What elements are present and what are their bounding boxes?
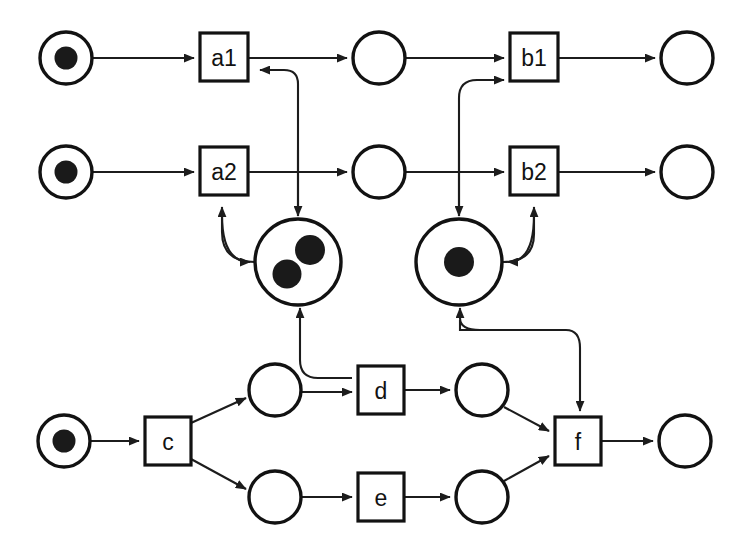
arc-f-to-shared-right	[460, 308, 480, 330]
places-layer	[38, 32, 713, 523]
place-a1-output[interactable]	[353, 32, 405, 84]
place-a1-input[interactable]	[40, 32, 92, 84]
transition-a2-label: a2	[211, 159, 237, 185]
arc-shared-right-to-b2	[503, 207, 534, 262]
transition-c-label: c	[162, 429, 174, 455]
transition-f-label: f	[575, 429, 582, 455]
arc-a2-to-shared-left	[222, 215, 250, 262]
petri-net-diagram: a1 b1 a2 b2 c d	[0, 0, 745, 559]
transition-f[interactable]: f	[555, 417, 601, 465]
arc-e-place-to-f	[504, 456, 549, 481]
place-c-upper-output[interactable]	[249, 364, 301, 416]
place-shared-right[interactable]	[416, 219, 502, 305]
arc-d-place-to-f	[504, 407, 549, 431]
transition-b2-label: b2	[521, 159, 547, 185]
token	[444, 247, 474, 277]
arc-b2-to-shared-right	[508, 215, 534, 262]
transition-b1-label: b1	[521, 45, 547, 71]
arc-c-to-upper-place	[191, 398, 246, 423]
arc-shared-right-to-b1	[459, 80, 504, 216]
token	[53, 430, 76, 453]
arc-upper-place-to-shared-left	[300, 308, 352, 378]
transition-a1-label: a1	[211, 45, 237, 71]
transition-d[interactable]: d	[358, 366, 404, 414]
place-c-input[interactable]	[38, 415, 90, 467]
place-f-output[interactable]	[659, 415, 711, 467]
place-d-output[interactable]	[456, 364, 508, 416]
place-e-output[interactable]	[456, 471, 508, 523]
place-a2-output[interactable]	[353, 146, 405, 198]
place-a2-input[interactable]	[40, 146, 92, 198]
token	[55, 161, 78, 184]
transition-e-label: e	[375, 485, 388, 511]
petri-net-canvas: a1 b1 a2 b2 c d	[0, 0, 745, 559]
arc-shared-left-to-a1	[260, 70, 298, 216]
transition-e[interactable]: e	[358, 473, 404, 521]
arc-shared-left-to-a2	[222, 207, 255, 262]
transition-c[interactable]: c	[145, 417, 191, 465]
transition-b1[interactable]: b1	[510, 33, 558, 81]
place-b2-output[interactable]	[661, 146, 713, 198]
place-c-lower-output[interactable]	[249, 471, 301, 523]
arc-c-to-lower-place	[191, 459, 246, 489]
token	[273, 260, 302, 289]
transitions-layer: a1 b1 a2 b2 c d	[145, 33, 601, 521]
transition-b2[interactable]: b2	[510, 147, 558, 195]
place-b1-output[interactable]	[661, 32, 713, 84]
transition-a2[interactable]: a2	[200, 147, 248, 195]
token	[295, 235, 325, 265]
token	[55, 47, 78, 70]
place-shared-left[interactable]	[255, 219, 341, 305]
transition-a1[interactable]: a1	[200, 33, 248, 81]
transition-d-label: d	[375, 378, 388, 404]
